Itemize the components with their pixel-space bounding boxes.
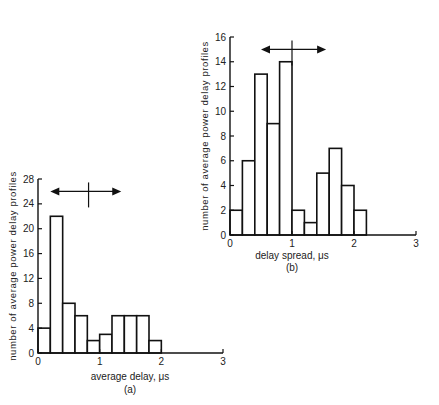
panel-a-y-axis-label: number of average power delay profiles [7,171,18,361]
panel-a-caption: (a) [124,384,136,395]
panel-a-y-tick-label: 8 [28,298,34,309]
panel-a-y-tick-label: 16 [23,248,35,259]
panel-a-bar [100,334,112,353]
panel-a-bar [124,316,136,353]
panel-a-y-tick-label: 12 [23,273,35,284]
panel-a-arrow-left-icon [50,187,59,195]
panel-b-bar [304,223,316,235]
panel-b-y-tick-label: 4 [220,180,226,191]
panel-b-y-tick-label: 8 [220,131,226,142]
panel-b-y-tick-label: 6 [220,155,226,166]
panel-b-arrow-right-icon [317,45,326,53]
panel-b-bar [292,210,304,235]
panel-b-bar [329,148,341,235]
panel-b-y-tick-label: 2 [220,205,226,216]
panel-a-y-tick-label: 20 [23,223,35,234]
panel-a-bar [75,316,87,353]
panel-b-bar [255,74,267,235]
panel-a-x-tick-label: 0 [35,356,41,367]
panel-a-bar [50,216,62,353]
panel-a-x-tick-label: 3 [220,356,226,367]
panel-a-bar [38,328,50,353]
panel-a-x-axis-label: average delay, μs [91,371,169,382]
panel-a-x-tick-label: 1 [97,356,103,367]
panel-a-y-tick-label: 4 [28,323,34,334]
panel-a-y-tick-label: 24 [23,198,35,209]
panel-a-arrow-right-icon [112,187,121,195]
panel-a-bar [63,303,75,353]
panel-a-bar [149,341,161,353]
panel-b-arrow-left-icon [261,45,270,53]
panel-b-y-tick-label: 16 [215,32,227,43]
panel-b-bar [342,186,354,236]
panel-a-bar [112,316,124,353]
panel-b-y-axis-label: number of average power delay profiles [199,41,210,231]
panel-b-bar [267,124,279,235]
panel-b-bar [230,210,242,235]
panel-a-x-tick-label: 2 [159,356,165,367]
chart-canvas: 01230481216202428average delay, μs(a)num… [0,0,439,405]
panel-a-y-tick-label: 28 [23,174,35,185]
panel-b-y-tick-label: 12 [215,81,227,92]
panel-b-x-tick-label: 0 [227,238,233,249]
panel-b-x-tick-label: 3 [413,238,419,249]
panel-b-y-tick-label: 14 [215,56,227,67]
panel-b-y-tick-label: 10 [215,106,227,117]
panel-b-x-axis-label: delay spread, μs [255,250,329,261]
panel-b-y-tick-label: 0 [220,230,226,241]
panel-b-bar [280,62,292,235]
panel-b-bar [242,161,254,235]
panel-a-y-tick-label: 0 [28,348,34,359]
panel-b-caption: (b) [286,262,298,273]
panel-a-bar [137,316,149,353]
panel-b-x-tick-label: 2 [351,238,357,249]
panel-b-bar [354,210,366,235]
panel-b-x-tick-label: 1 [289,238,295,249]
panel-a-bar [87,341,99,353]
panel-b-bar [317,173,329,235]
